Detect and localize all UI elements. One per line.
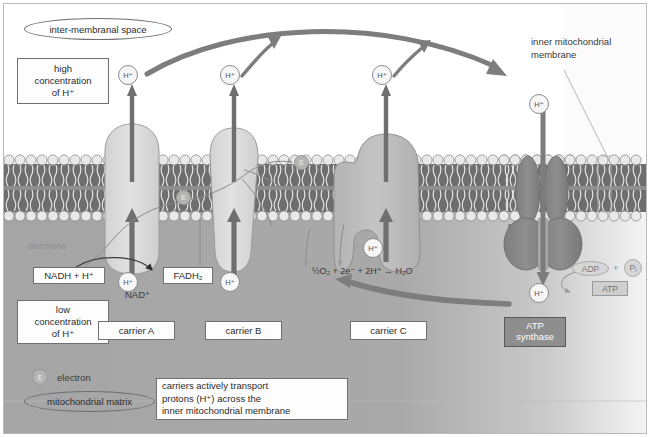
carrier-b-label-box: carrier B (205, 321, 282, 340)
plus-sign: + (613, 262, 619, 273)
electrons-text: electrons (28, 240, 67, 251)
proton-release-arrows (242, 44, 422, 76)
low-concentration-box: low concentration of H⁺ (17, 300, 109, 344)
mitochondrial-matrix-label: mitochondrial matrix (24, 391, 155, 412)
fadh2-box: FADH₂ (163, 267, 213, 284)
atp-box: ATP (592, 281, 628, 296)
carrier-a-label: carrier A (119, 325, 154, 337)
proton-synthase-bottom: H⁺ (529, 283, 549, 303)
proton-carrier-c-bottom: H⁺ (363, 238, 383, 258)
proton-carrier-b-top: H⁺ (220, 65, 240, 85)
carrier-c-label-box: carrier C (350, 321, 427, 340)
mitochondrial-matrix-text: mitochondrial matrix (47, 396, 132, 407)
caption-box: carriers actively transport protons (H⁺)… (156, 378, 348, 420)
proton-label: H⁺ (123, 71, 132, 80)
proton-label: H⁺ (368, 244, 377, 253)
proton-carrier-a-top: H⁺ (118, 65, 138, 85)
proton-label: H⁺ (534, 100, 543, 109)
proton-label: H⁺ (534, 289, 543, 298)
electron-icon-membrane: E (176, 190, 191, 205)
electron-symbol-text: E (38, 374, 43, 381)
carrier-c-label: carrier C (370, 325, 406, 337)
nadh-box: NADH + H⁺ (33, 267, 105, 284)
proton-circulation-arrow (147, 32, 494, 74)
atp-text: ATP (602, 284, 618, 294)
nad-text: NAD⁺ (125, 289, 150, 300)
electron-icon-membrane-2: E (294, 155, 309, 170)
electrons-label: electrons (28, 240, 67, 251)
adp-ellipse: ADP (572, 261, 609, 276)
low-concentration-text: low concentration of H⁺ (34, 304, 91, 340)
proton-label: H⁺ (225, 71, 234, 80)
electron-symbol-text: E (299, 159, 304, 166)
electron-legend-text: electron (57, 372, 91, 383)
proton-label: H⁺ (377, 71, 386, 80)
inner-membrane-label: inner mitochondrial membrane (531, 24, 611, 61)
carrier-b-label: carrier B (226, 325, 262, 337)
high-concentration-text: high concentration of H⁺ (34, 63, 91, 99)
proton-label: H⁺ (123, 278, 132, 287)
electron-legend-label: electron (57, 372, 91, 383)
electron-symbol-text: E (181, 194, 186, 201)
proton-carrier-c-top: H⁺ (372, 65, 392, 85)
inter-membranal-space-label: inter-membranal space (24, 18, 172, 40)
carrier-a-label-box: carrier A (98, 321, 175, 340)
high-concentration-box: high concentration of H⁺ (17, 58, 109, 104)
nad-label: NAD⁺ (125, 289, 150, 300)
phosphate-ellipse: Pᵢ (624, 259, 642, 277)
electron-legend-icon: E (32, 369, 48, 385)
plus-text: + (613, 262, 619, 273)
fadh2-text: FADH₂ (173, 270, 202, 282)
proton-synthase-top: H⁺ (529, 94, 549, 114)
inter-membranal-space-text: inter-membranal space (49, 24, 146, 35)
caption-text: carriers actively transport protons (H⁺)… (162, 380, 290, 418)
figure-canvas: inter-membranal space high concentration… (0, 0, 650, 437)
nadh-text: NADH + H⁺ (44, 270, 94, 282)
inner-membrane-text: inner mitochondrial membrane (531, 36, 611, 59)
proton-label: H⁺ (225, 278, 234, 287)
phosphate-text: Pᵢ (629, 263, 636, 273)
atp-synthase-label: ATP synthase (516, 321, 554, 343)
adp-text: ADP (582, 264, 599, 274)
proton-carrier-b-bottom: H⁺ (220, 272, 240, 292)
oxygen-reaction-equation: ½O₂ + 2e⁻ + 2H⁺ → H₂O (312, 266, 413, 276)
atp-synthase-label-box: ATP synthase (504, 317, 566, 347)
oxygen-equation-text: ½O₂ + 2e⁻ + 2H⁺ → H₂O (312, 266, 413, 276)
